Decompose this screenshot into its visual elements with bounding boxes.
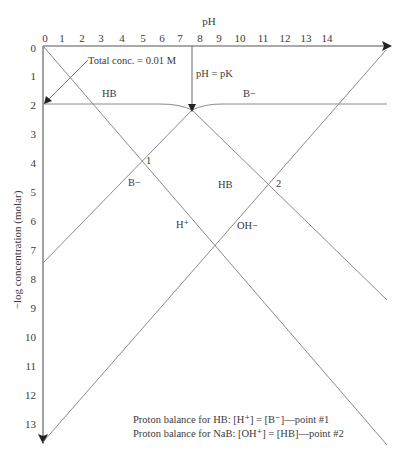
y-axis-ticks: 0 1 2 3 4 5 6 7 8 9 10 11 12 13 <box>25 42 37 430</box>
x-tick: 8 <box>197 32 203 44</box>
x-tick: 13 <box>301 32 313 44</box>
oh-minus-line <box>43 50 386 442</box>
y-tick: 2 <box>31 99 37 111</box>
total-conc-pointer-line <box>48 60 88 100</box>
x-tick: 1 <box>59 32 65 44</box>
y-tick: 3 <box>31 128 37 140</box>
total-conc-label: Total conc. = 0.01 M <box>88 55 177 66</box>
y-tick: 6 <box>31 215 37 227</box>
point-1-label: 1 <box>146 155 151 166</box>
oh-minus-label: OH− <box>237 220 258 231</box>
y-tick: 8 <box>31 273 37 285</box>
x-tick: 7 <box>177 32 183 44</box>
log-concentration-diagram: pH 0 1 2 3 4 5 6 7 8 9 10 11 12 13 14 0 … <box>0 0 405 459</box>
x-tick: 3 <box>98 32 104 44</box>
x-tick: 4 <box>119 32 125 44</box>
x-tick: 2 <box>79 32 85 44</box>
y-tick: 1 <box>31 70 37 82</box>
x-tick: 11 <box>258 32 269 44</box>
legend-line-2: Proton balance for NaB: [OH⁺] = [HB]—poi… <box>133 428 344 439</box>
b-minus-curve <box>43 104 387 263</box>
x-tick: 12 <box>280 32 291 44</box>
y-tick: 7 <box>31 244 37 256</box>
y-tick: 11 <box>25 360 36 372</box>
y-tick: 4 <box>31 157 37 169</box>
point-2-label: 2 <box>276 178 281 189</box>
hb-curve <box>43 104 387 300</box>
x-tick: 0 <box>42 32 48 44</box>
y-tick: 0 <box>31 42 37 54</box>
ph-pk-label: pH = pK <box>196 68 233 79</box>
x-tick: 6 <box>159 32 165 44</box>
pk-arrow-icon <box>188 104 196 112</box>
hb-diag-label: HB <box>218 179 233 190</box>
h-plus-label: H⁺ <box>176 219 189 230</box>
y-tick: 13 <box>25 418 37 430</box>
y-tick: 5 <box>31 186 37 198</box>
y-axis-title: −log concentration (molar) <box>11 190 24 309</box>
b-minus-top-label: B− <box>243 88 256 99</box>
x-axis-title: pH <box>202 15 216 27</box>
x-tick: 10 <box>235 32 247 44</box>
x-tick: 5 <box>140 32 146 44</box>
legend-line-1: Proton balance for HB: [H⁺] = [B⁻]—point… <box>133 414 329 425</box>
b-minus-diag-label: B− <box>128 177 141 188</box>
y-tick: 12 <box>25 389 36 401</box>
x-tick: 9 <box>216 32 222 44</box>
y-tick: 10 <box>25 331 37 343</box>
x-axis-ticks: 0 1 2 3 4 5 6 7 8 9 10 11 12 13 14 <box>42 32 333 44</box>
hb-top-label: HB <box>102 88 117 99</box>
y-tick: 9 <box>31 302 37 314</box>
x-tick: 14 <box>322 32 334 44</box>
